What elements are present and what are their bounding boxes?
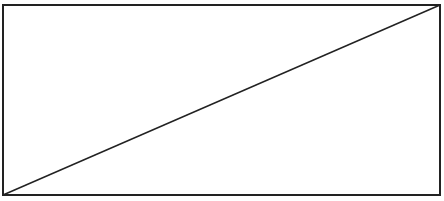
rectangle-diagonal-diagram	[0, 0, 444, 201]
diagram-canvas	[0, 0, 444, 201]
